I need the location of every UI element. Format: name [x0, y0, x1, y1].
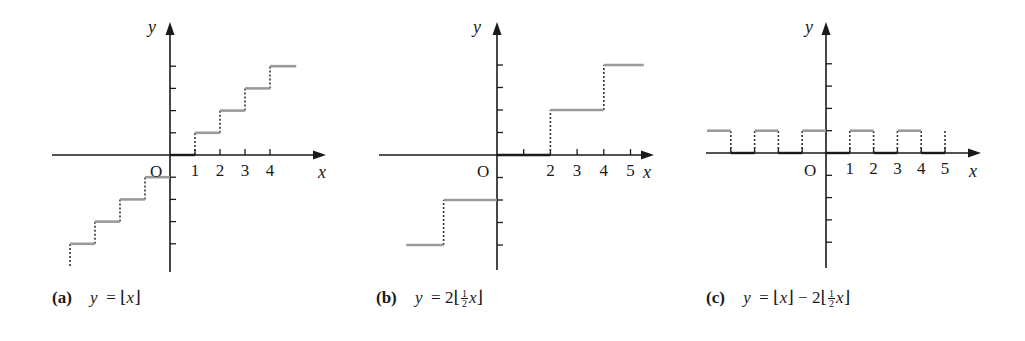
x-tick-label: 2: [546, 161, 555, 180]
caption-equals: =: [102, 288, 120, 307]
y-axis-arrow-icon: [822, 22, 831, 35]
figure-stage: 1234Oxy2345Oxy12345Oxy (a) y = ⌊x⌋ (b) y…: [0, 0, 1025, 341]
floor-open: ⌊: [453, 288, 460, 307]
x-axis-label: x: [968, 161, 977, 181]
caption-tag: (c): [706, 288, 725, 307]
x-tick-label: 5: [941, 159, 950, 178]
x-tick-label: 5: [626, 161, 635, 180]
y-axis-label: y: [803, 17, 813, 37]
x-axis-arrow-icon: [968, 149, 981, 158]
floor-open: ⌊: [773, 288, 780, 307]
caption-minus: −: [794, 288, 812, 307]
origin-label: O: [804, 161, 816, 180]
panel-b: 2345Oxy: [379, 17, 654, 270]
fraction: 12: [828, 289, 835, 308]
x-tick-label: 2: [869, 159, 878, 178]
caption-var: x: [469, 288, 477, 307]
x-tick-label: 1: [846, 159, 855, 178]
x-tick-label: 4: [266, 161, 275, 180]
y-axis-label: y: [471, 17, 481, 37]
x-axis-label: x: [642, 162, 651, 182]
x-tick-label: 3: [573, 161, 582, 180]
floor-open: ⌊: [820, 288, 827, 307]
x-axis-arrow-icon: [313, 151, 326, 160]
x-tick-label: 2: [216, 161, 225, 180]
x-tick-label: 3: [893, 159, 902, 178]
y-axis-arrow-icon: [166, 22, 175, 35]
x-tick-label: 3: [241, 161, 250, 180]
caption-a: (a) y = ⌊x⌋: [52, 288, 141, 308]
caption-tag: (b): [376, 288, 397, 307]
caption-equals: =: [755, 288, 773, 307]
y-axis-arrow-icon: [493, 22, 502, 35]
fraction-denominator: 2: [461, 299, 468, 308]
origin-label: O: [150, 162, 162, 181]
caption-lhs: y: [415, 288, 423, 307]
floor-close: ⌋: [787, 288, 794, 307]
x-tick-label: 4: [917, 159, 926, 178]
fraction-denominator: 2: [828, 299, 835, 308]
x-tick-label: 4: [600, 161, 609, 180]
panel-c: 12345Oxy: [706, 17, 981, 268]
x-axis-arrow-icon: [641, 151, 654, 160]
caption-equals: =: [427, 288, 445, 307]
caption-var: x: [836, 288, 844, 307]
caption-lhs: y: [743, 288, 751, 307]
caption-lhs: y: [90, 288, 98, 307]
panel-a: 1234Oxy: [52, 17, 326, 272]
caption-c: (c) y = ⌊x⌋ − 2⌊12x⌋: [706, 288, 850, 309]
caption-tag: (a): [52, 288, 72, 307]
origin-label: O: [477, 162, 489, 181]
floor-close: ⌋: [134, 288, 141, 307]
y-axis-label: y: [146, 17, 156, 37]
step-function-plots: 1234Oxy2345Oxy12345Oxy: [0, 0, 1025, 341]
caption-b: (b) y = 2⌊12x⌋: [376, 288, 483, 309]
x-tick-label: 1: [191, 161, 200, 180]
x-axis-label: x: [317, 162, 326, 182]
fraction: 12: [461, 289, 468, 308]
floor-close: ⌋: [844, 288, 851, 307]
floor-open: ⌊: [120, 288, 127, 307]
floor-close: ⌋: [477, 288, 484, 307]
